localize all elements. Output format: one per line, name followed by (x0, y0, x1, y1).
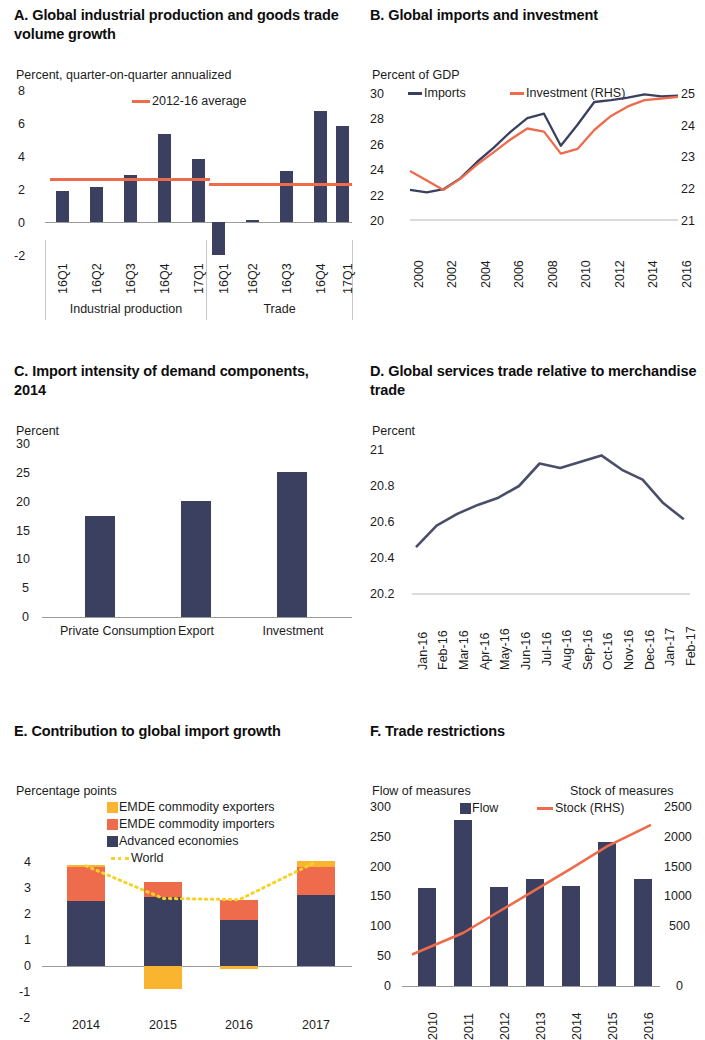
panel-f-xtick-2013: 2013 (534, 1012, 548, 1040)
panel-d-xtick-jul-16: Jul-16 (540, 632, 554, 666)
panel-d-xtick-apr-16: Apr-16 (478, 632, 492, 670)
panel-a-xtick-ip-1: 16Q2 (90, 263, 104, 294)
panel-a-bar-ip-16q1 (56, 191, 69, 222)
panel-a-bar-trade-16q4 (314, 111, 327, 222)
panel-e: E. Contribution to global import growth … (14, 722, 359, 1036)
panel-a-xtick-tr-3: 16Q4 (314, 263, 328, 294)
panel-a-bar-trade-16q1 (212, 222, 225, 255)
panel-d-xtick-aug-16: Aug-16 (560, 630, 574, 670)
panel-c-bar-investment (277, 472, 307, 617)
panel-f-xtick-2012: 2012 (498, 1012, 512, 1040)
panel-f: F. Trade restrictions Flow of measures S… (370, 722, 705, 1036)
panel-a-avgline-ip (50, 178, 210, 181)
panel-f-plot: 2010 2011 2012 2013 2014 2015 2016 (370, 722, 705, 1036)
panel-d-xtick-feb-16: Feb-16 (436, 630, 450, 670)
panel-d-xtick-sep-16: Sep-16 (581, 630, 595, 670)
panel-b: B. Global imports and investment Percent… (370, 6, 705, 336)
panel-a-xtick-tr-2: 16Q3 (280, 263, 294, 294)
panel-b-xtick-2006: 2006 (512, 260, 526, 288)
panel-d-xtick-nov-16: Nov-16 (622, 630, 636, 670)
panel-d: D. Global services trade relative to mer… (370, 362, 705, 692)
panel-e-xtick-2017: 2017 (284, 1018, 348, 1032)
panel-d-xtick-mar-16: Mar-16 (457, 630, 471, 670)
panel-d-xtick-jan-17: Jan-17 (663, 628, 677, 666)
panel-c-bar-export (181, 501, 211, 617)
panel-a-zero-axis (45, 222, 352, 223)
panel-a-plot: 16Q1 16Q2 16Q3 16Q4 17Q1 16Q1 16Q2 16Q3 … (14, 6, 359, 336)
panel-b-xtick-2010: 2010 (579, 260, 593, 288)
panel-b-xtick-2002: 2002 (445, 260, 459, 288)
panel-f-xtick-2011: 2011 (462, 1013, 476, 1040)
panel-b-xtick-2000: 2000 (412, 260, 426, 288)
panel-f-xtick-2010: 2010 (426, 1012, 440, 1040)
panel-d-xtick-jan-16: Jan-16 (416, 632, 430, 670)
panel-a-bar-trade-16q3 (280, 171, 293, 222)
panel-b-xtick-2014: 2014 (646, 260, 660, 288)
panel-a: A. Global industrial production and good… (14, 6, 359, 336)
panel-a-bar-ip-17q1 (192, 159, 205, 222)
panel-f-xtick-2015: 2015 (606, 1012, 620, 1040)
panel-c-xtick-private-consumption: Private Consumption (60, 624, 140, 640)
panel-a-xtick-ip-0: 16Q1 (56, 263, 70, 294)
panel-d-xtick-may-16: May-16 (498, 628, 512, 670)
panel-d-xtick-feb-17: Feb-17 (684, 626, 698, 666)
panel-a-group-label-trade: Trade (207, 302, 352, 316)
panel-a-xtick-ip-2: 16Q3 (124, 263, 138, 294)
panel-d-xtick-oct-16: Oct-16 (601, 632, 615, 670)
panel-f-stock-line (370, 722, 705, 1036)
panel-a-bar-ip-16q2 (90, 187, 103, 223)
panel-e-world-line (14, 722, 359, 1036)
panel-c-zero-axis (42, 617, 352, 618)
panel-a-bar-trade-17q1 (336, 126, 349, 223)
panel-e-plot: 2014 2015 2016 2017 (14, 722, 359, 1036)
panel-c-bar-private-consumption (85, 516, 115, 617)
panel-e-xtick-2014: 2014 (54, 1018, 118, 1032)
panel-a-xtick-ip-3: 16Q4 (158, 263, 172, 294)
panel-f-xtick-2014: 2014 (570, 1012, 584, 1040)
panel-a-xtick-tr-4: 17Q1 (341, 263, 355, 294)
panel-a-group-label-ip: Industrial production (46, 302, 206, 316)
panel-e-xtick-2015: 2015 (131, 1018, 195, 1032)
panel-b-xtick-2016: 2016 (680, 260, 694, 288)
panel-d-xtick-jun-16: Jun-16 (519, 632, 533, 670)
panel-a-avgline-trade (209, 183, 352, 186)
panel-b-xtick-2004: 2004 (479, 260, 493, 288)
panel-a-xtick-ip-4: 17Q1 (192, 263, 206, 294)
panel-d-xtick-dec-16: Dec-16 (643, 630, 657, 670)
panel-f-xtick-2016: 2016 (642, 1012, 656, 1040)
panel-a-bar-ip-16q3 (124, 175, 137, 222)
panel-a-bar-trade-16q2 (246, 220, 259, 222)
panel-c-xtick-investment: Investment (250, 624, 336, 638)
panel-c-plot: Private Consumption Export Investment (14, 362, 359, 682)
panel-a-xtick-tr-0: 16Q1 (217, 263, 231, 294)
panel-b-xtick-2008: 2008 (546, 260, 560, 288)
panel-a-xtick-tr-1: 16Q2 (246, 263, 260, 294)
panel-c: C. Import intensity of demand components… (14, 362, 359, 682)
panel-c-xtick-export: Export (156, 624, 236, 638)
panel-e-xtick-2016: 2016 (207, 1018, 271, 1032)
panel-b-xtick-2012: 2012 (613, 260, 627, 288)
